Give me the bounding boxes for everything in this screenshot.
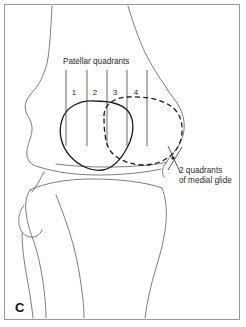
tibia-anterior-outline — [26, 190, 46, 318]
quadrant-number-3: 3 — [113, 88, 118, 97]
femur-posterior-outline — [128, 6, 171, 95]
tibial-crest-line — [56, 195, 84, 318]
leader-anchor-dot — [171, 156, 174, 159]
femur-anterior-outline — [25, 6, 52, 167]
tibial-plateau-outline — [30, 179, 162, 190]
patella-dashed-outline — [104, 97, 182, 165]
figure-panel-c: Patellar quadrants 1 2 3 4 2 quadrants o… — [0, 0, 246, 327]
quadrant-number-1: 1 — [72, 88, 77, 97]
medial-condyle-inner-contour — [32, 172, 44, 192]
medial-glide-callout-line1: 2 quadrants — [179, 166, 222, 175]
panel-letter-label: C — [15, 300, 25, 315]
tibia-posterior-outline — [145, 188, 166, 318]
patella-solid-outline — [60, 101, 133, 170]
quadrant-number-2: 2 — [93, 88, 98, 97]
femoral-condyle-outline — [163, 95, 185, 177]
patellar-quadrants-label: Patellar quadrants — [63, 57, 129, 66]
knee-diagram-svg: Patellar quadrants 1 2 3 4 2 quadrants o… — [0, 0, 246, 327]
medial-glide-callout-line2: of medial glide — [179, 176, 232, 185]
quadrant-number-4: 4 — [134, 88, 139, 97]
